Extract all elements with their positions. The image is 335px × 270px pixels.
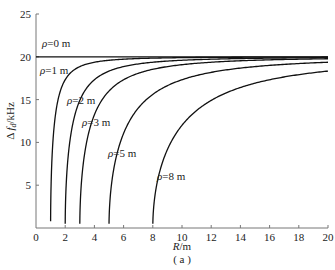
curve-label: ρ=5 m bbox=[107, 147, 137, 159]
curve-rho-2 bbox=[65, 58, 328, 224]
y-axis-label: Δ fd/kHz bbox=[4, 102, 18, 140]
chart: 02468101214161820510152025 ρ=0 mρ=1 mρ=2… bbox=[0, 0, 335, 270]
x-tick-label: 2 bbox=[62, 231, 68, 243]
y-tick-label: 15 bbox=[20, 94, 32, 106]
chart-caption: ( a ) bbox=[173, 253, 191, 266]
curve-label: ρ=2 m bbox=[66, 94, 96, 106]
x-tick-label: 4 bbox=[92, 231, 98, 243]
x-tick-label: 20 bbox=[323, 231, 335, 243]
x-tick-label: 0 bbox=[33, 231, 39, 243]
x-tick-label: 6 bbox=[121, 231, 127, 243]
curves bbox=[36, 57, 328, 224]
curve-rho-3 bbox=[80, 59, 328, 224]
curve-label: ρ=8 m bbox=[156, 170, 186, 182]
curve-label: ρ=3 m bbox=[81, 116, 111, 128]
x-tick-label: 18 bbox=[293, 231, 305, 243]
x-tick-label: 16 bbox=[264, 231, 276, 243]
y-tick-label: 25 bbox=[20, 8, 32, 20]
x-axis-label: R/m bbox=[172, 240, 192, 252]
curve-label: ρ=1 m bbox=[39, 64, 69, 76]
y-tick-label: 10 bbox=[20, 136, 32, 148]
x-tick-label: 8 bbox=[150, 231, 156, 243]
y-tick-label: 5 bbox=[26, 179, 32, 191]
curve-rho-8 bbox=[153, 71, 328, 224]
curve-label: ρ=0 m bbox=[41, 37, 71, 49]
x-tick-label: 12 bbox=[206, 231, 217, 243]
y-tick-label: 20 bbox=[20, 51, 32, 63]
curve-rho-5 bbox=[109, 62, 328, 223]
x-tick-label: 14 bbox=[235, 231, 247, 243]
